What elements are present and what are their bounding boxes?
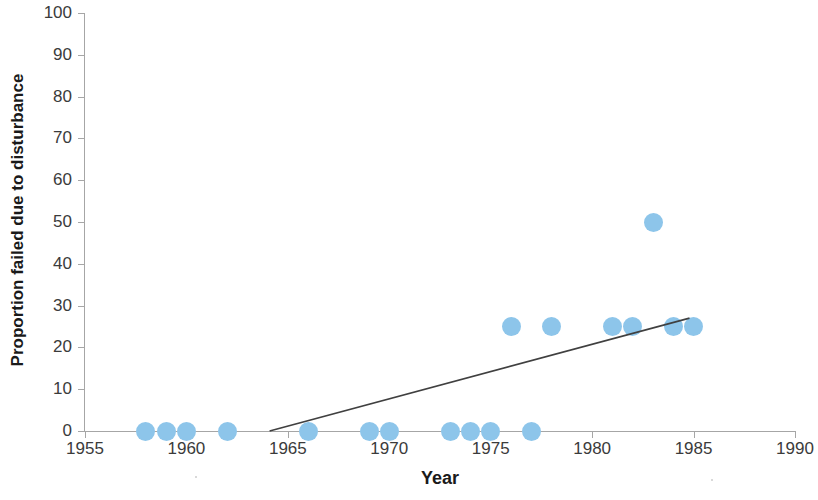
x-tick-label: 1955 bbox=[50, 440, 120, 457]
scan-artifact bbox=[195, 476, 197, 478]
data-point bbox=[542, 317, 561, 336]
y-tick-label: 80 bbox=[32, 88, 72, 105]
y-tick-label: 50 bbox=[32, 213, 72, 230]
y-tick-mark bbox=[78, 347, 85, 348]
y-tick-label: 20 bbox=[32, 338, 72, 355]
y-tick-mark bbox=[78, 13, 85, 14]
y-tick-mark bbox=[78, 264, 85, 265]
data-point bbox=[157, 422, 176, 441]
y-tick-label: 0 bbox=[32, 422, 72, 439]
scan-artifact bbox=[711, 479, 713, 481]
data-point bbox=[664, 317, 683, 336]
data-point bbox=[522, 422, 541, 441]
y-tick-mark bbox=[78, 222, 85, 223]
data-point bbox=[177, 422, 196, 441]
data-point bbox=[441, 422, 460, 441]
x-tick-mark bbox=[592, 431, 593, 438]
data-point bbox=[603, 317, 622, 336]
y-axis-title: Proportion failed due to disturbance bbox=[2, 0, 34, 440]
data-point bbox=[684, 317, 703, 336]
x-tick-label: 1960 bbox=[151, 440, 221, 457]
y-tick-label: 100 bbox=[32, 4, 72, 21]
x-tick-label: 1980 bbox=[557, 440, 627, 457]
y-tick-mark bbox=[78, 180, 85, 181]
y-tick-mark bbox=[78, 97, 85, 98]
x-tick-mark bbox=[288, 431, 289, 438]
data-point bbox=[481, 422, 500, 441]
data-point bbox=[360, 422, 379, 441]
y-tick-label: 30 bbox=[32, 297, 72, 314]
x-tick-label: 1985 bbox=[659, 440, 729, 457]
data-point bbox=[623, 317, 642, 336]
data-point bbox=[136, 422, 155, 441]
y-tick-mark bbox=[78, 138, 85, 139]
x-tick-mark bbox=[694, 431, 695, 438]
data-point bbox=[218, 422, 237, 441]
y-tick-label: 40 bbox=[32, 255, 72, 272]
data-point bbox=[299, 422, 318, 441]
y-tick-label: 60 bbox=[32, 171, 72, 188]
data-point bbox=[380, 422, 399, 441]
y-tick-label: 70 bbox=[32, 129, 72, 146]
y-tick-label: 10 bbox=[32, 380, 72, 397]
x-axis-title: Year bbox=[85, 468, 795, 489]
x-tick-label: 1975 bbox=[456, 440, 526, 457]
data-point bbox=[502, 317, 521, 336]
y-tick-label: 90 bbox=[32, 46, 72, 63]
data-point bbox=[461, 422, 480, 441]
y-tick-mark bbox=[78, 306, 85, 307]
x-tick-label: 1965 bbox=[253, 440, 323, 457]
x-tick-mark bbox=[85, 431, 86, 438]
y-tick-mark bbox=[78, 389, 85, 390]
x-tick-mark bbox=[795, 431, 796, 438]
y-tick-mark bbox=[78, 431, 85, 432]
y-tick-mark bbox=[78, 55, 85, 56]
x-tick-label: 1970 bbox=[354, 440, 424, 457]
data-point bbox=[644, 213, 663, 232]
x-tick-label: 1990 bbox=[760, 440, 818, 457]
